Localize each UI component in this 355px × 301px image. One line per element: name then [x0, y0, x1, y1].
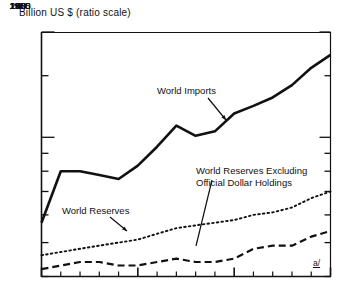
series-label-excl-line2: Official Dollar Holdings	[196, 177, 292, 188]
series-line-solid	[42, 55, 331, 223]
plot-area	[0, 0, 355, 301]
x-axis-ticks	[42, 268, 331, 277]
chart-figure: Billion US $ (ratio scale) 200 150 100 9…	[0, 0, 355, 301]
series-label-excl-line1: World Reserves Excluding	[196, 165, 307, 176]
series-line-dashed	[42, 231, 331, 269]
y-axis-ticks	[42, 32, 55, 277]
series-line-dotted	[42, 191, 331, 255]
series-label-world-reserves-excluding: World Reserves Excluding Official Dollar…	[196, 165, 307, 188]
series-label-world-imports: World Imports	[157, 85, 216, 97]
y-axis-ticks-right	[320, 32, 331, 277]
series-label-world-reserves: World Reserves	[62, 205, 129, 217]
axis-frame	[42, 32, 332, 277]
footnote-marker: a/	[313, 258, 320, 268]
x-tick-label-1965: 1965	[0, 0, 40, 11]
